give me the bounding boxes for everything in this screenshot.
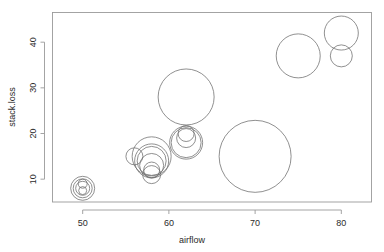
- data-point-bubble: [219, 120, 291, 192]
- data-point-bubble: [158, 69, 214, 125]
- x-tick-label: 80: [336, 218, 346, 228]
- bubble-chart-figure: 50607080 10203040 airflow stack.loss: [0, 0, 384, 252]
- y-tick-label: 10: [29, 174, 39, 184]
- x-tick-label: 60: [164, 218, 174, 228]
- y-axis-title: stack.loss: [7, 87, 17, 127]
- data-point-bubble: [79, 187, 87, 195]
- x-tick-label: 50: [78, 218, 88, 228]
- x-tick-label: 70: [250, 218, 260, 228]
- bubble-series: [71, 16, 359, 200]
- y-tick-label: 40: [29, 37, 39, 47]
- y-tick-label: 20: [29, 129, 39, 139]
- data-point-bubble: [330, 45, 352, 67]
- x-axis-ticks: 50607080: [78, 210, 347, 228]
- plot-canvas: 50607080 10203040 airflow stack.loss: [0, 0, 384, 252]
- data-point-bubble: [276, 34, 320, 78]
- y-axis-ticks: 10203040: [29, 37, 45, 184]
- x-axis-title: airflow: [179, 235, 206, 245]
- data-point-bubble: [135, 144, 169, 178]
- data-point-bubble: [170, 126, 203, 159]
- data-point-bubble: [171, 128, 201, 158]
- y-tick-label: 30: [29, 83, 39, 93]
